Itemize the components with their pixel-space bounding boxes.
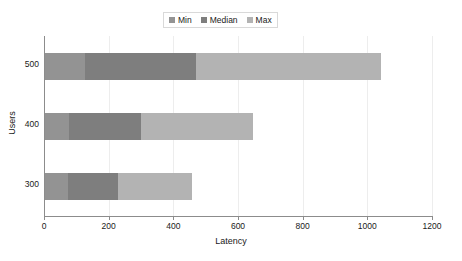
y-axis-line bbox=[44, 36, 45, 217]
bar-segment-max[interactable] bbox=[141, 113, 253, 140]
bar-segment-median[interactable] bbox=[69, 113, 141, 140]
bar-segment-min[interactable] bbox=[44, 53, 85, 80]
y-axis-title: Users bbox=[7, 93, 17, 153]
legend-label-min: Min bbox=[178, 16, 192, 25]
x-tick-mark bbox=[367, 216, 368, 220]
bar-segment-max[interactable] bbox=[118, 173, 192, 200]
y-tick-label: 500 bbox=[25, 59, 39, 69]
bar-segment-min[interactable] bbox=[44, 113, 69, 140]
x-tick-label-0: 0 bbox=[42, 221, 47, 231]
bar-segment-median[interactable] bbox=[68, 173, 118, 200]
x-tick-mark bbox=[109, 216, 110, 220]
legend-label-max: Max bbox=[256, 16, 272, 25]
x-tick-label-800: 800 bbox=[296, 221, 310, 231]
x-tick-label-400: 400 bbox=[166, 221, 180, 231]
y-tick-500: 500 bbox=[0, 59, 39, 73]
legend-item-max[interactable]: Max bbox=[247, 16, 272, 25]
chart-legend: Min Median Max bbox=[163, 12, 278, 28]
x-tick-label-200: 200 bbox=[102, 221, 116, 231]
bar-row[interactable] bbox=[44, 173, 192, 200]
x-axis-title: Latency bbox=[0, 236, 462, 246]
bar-segment-median[interactable] bbox=[85, 53, 196, 80]
y-tick-label: 300 bbox=[25, 179, 39, 189]
legend-swatch-max bbox=[247, 17, 253, 23]
gridline bbox=[432, 36, 433, 216]
bar-segment-max[interactable] bbox=[196, 53, 381, 80]
x-tick-label-1000: 1000 bbox=[358, 221, 377, 231]
x-tick-mark bbox=[303, 216, 304, 220]
x-tick-label-600: 600 bbox=[231, 221, 245, 231]
x-tick-mark bbox=[44, 216, 45, 220]
x-tick-mark bbox=[432, 216, 433, 220]
legend-swatch-min bbox=[169, 17, 175, 23]
x-tick-mark bbox=[238, 216, 239, 220]
legend-item-min[interactable]: Min bbox=[169, 16, 192, 25]
legend-label-median: Median bbox=[210, 16, 238, 25]
y-tick-400: 400 bbox=[0, 119, 39, 133]
x-tick-label-1200: 1200 bbox=[423, 221, 442, 231]
x-tick-mark bbox=[173, 216, 174, 220]
bar-row[interactable] bbox=[44, 53, 381, 80]
plot-area bbox=[44, 36, 432, 216]
bar-segment-min[interactable] bbox=[44, 173, 68, 200]
latency-by-users-chart: Min Median Max 020040060080010001200 500… bbox=[0, 0, 462, 261]
legend-item-median[interactable]: Median bbox=[201, 16, 238, 25]
y-tick-label: 400 bbox=[25, 119, 39, 129]
legend-swatch-median bbox=[201, 17, 207, 23]
y-tick-300: 300 bbox=[0, 179, 39, 193]
bar-row[interactable] bbox=[44, 113, 253, 140]
